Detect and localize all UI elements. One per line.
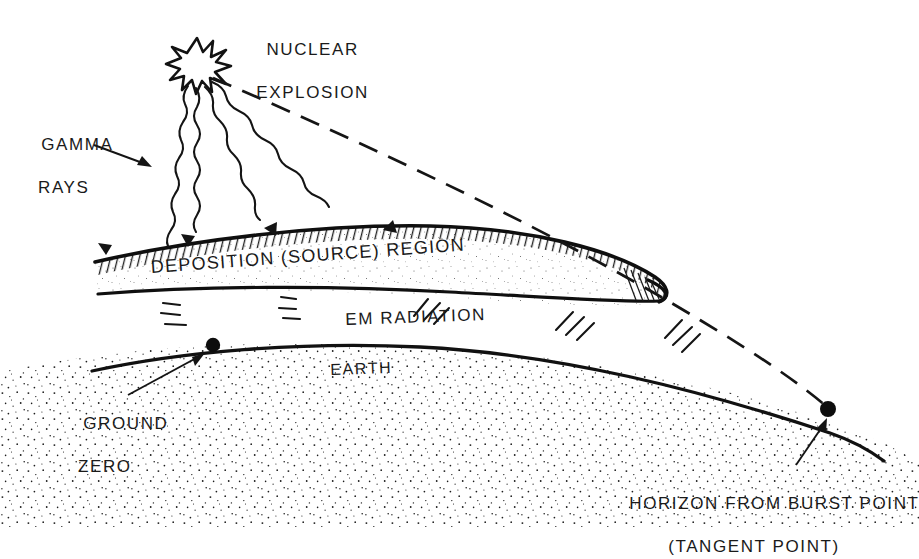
gamma-rays-line-2: RAYS xyxy=(38,177,114,198)
ground-zero-line-2: ZERO xyxy=(78,456,168,477)
horizon-line-1: HORIZON FROM BURST POINT xyxy=(629,494,919,513)
nuclear-explosion-line-1: NUCLEAR xyxy=(266,40,358,59)
ground-zero-line-1: GROUND xyxy=(83,414,168,433)
gamma-ray-2 xyxy=(194,88,200,232)
label-nuclear-explosion: NUCLEAR EXPLOSION xyxy=(231,18,369,125)
horizon-line-2: (TANGENT POINT) xyxy=(604,536,904,557)
label-horizon-from-burst-point: HORIZON FROM BURST POINT (TANGENT POINT) xyxy=(604,472,904,559)
gamma-rays-line-1: GAMMA xyxy=(41,135,113,154)
em-mark-group-1 xyxy=(161,303,186,325)
gamma-ray-1 xyxy=(167,86,188,246)
nuclear-explosion-line-2: EXPLOSION xyxy=(256,83,369,102)
tangent-point-dot-marker xyxy=(820,401,836,417)
em-mark-group-2 xyxy=(279,297,300,319)
em-mark-group-4 xyxy=(556,312,594,340)
ground-zero-dot-marker xyxy=(206,338,220,352)
label-ground-zero: GROUND ZERO xyxy=(58,392,168,520)
em-mark-group-5 xyxy=(665,320,700,352)
starburst-icon xyxy=(166,38,231,94)
label-earth: EARTH xyxy=(330,358,393,380)
label-gamma-rays: GAMMA RAYS xyxy=(16,113,114,241)
